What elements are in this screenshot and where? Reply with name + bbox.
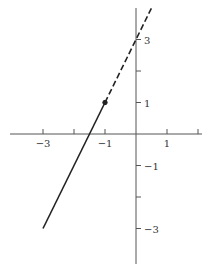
solid-line-segment bbox=[43, 103, 105, 229]
x-tick-label: 1 bbox=[164, 138, 170, 149]
dashed-line-segment bbox=[105, 8, 152, 103]
x-ticks: −3−11 bbox=[36, 129, 198, 149]
x-tick-label: −3 bbox=[36, 138, 51, 149]
series-layer bbox=[43, 8, 152, 229]
line-chart: −3−11 31−1−3 bbox=[0, 0, 208, 270]
axes bbox=[10, 8, 202, 264]
y-tick-label: 1 bbox=[144, 98, 150, 109]
y-tick-label: −1 bbox=[144, 161, 159, 172]
y-tick-label: 3 bbox=[144, 35, 150, 46]
y-tick-label: −3 bbox=[144, 224, 159, 235]
x-tick-label: −1 bbox=[98, 138, 113, 149]
endpoint-dot bbox=[103, 100, 107, 104]
